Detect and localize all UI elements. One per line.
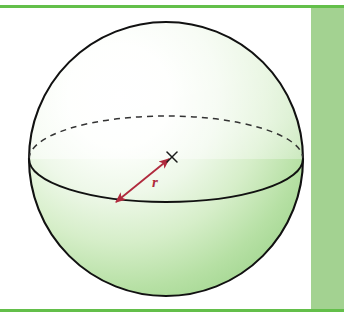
right-green-band bbox=[311, 8, 344, 309]
radius-label: r bbox=[152, 174, 158, 190]
figure-page: r bbox=[0, 0, 344, 321]
sphere-group bbox=[29, 22, 303, 296]
bottom-green-rule bbox=[0, 309, 344, 312]
top-green-rule bbox=[0, 5, 344, 8]
sphere-figure: r bbox=[0, 0, 344, 321]
